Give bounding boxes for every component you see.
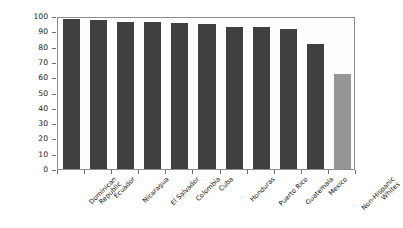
y-axis-tick-label: 10 bbox=[38, 150, 48, 159]
x-axis-tick-mark bbox=[111, 170, 112, 174]
bar bbox=[171, 23, 188, 169]
x-axis-category-label: Non-HispanicWhites bbox=[361, 176, 402, 217]
y-axis-tick-mark bbox=[52, 109, 56, 110]
y-axis-tick: 80 bbox=[0, 48, 57, 49]
x-axis-tick-mark bbox=[192, 170, 193, 174]
y-axis-tick-label: 40 bbox=[38, 104, 48, 113]
bar bbox=[144, 22, 161, 169]
y-axis-tick: 50 bbox=[0, 94, 57, 95]
bar bbox=[307, 44, 324, 169]
bar bbox=[90, 20, 107, 169]
bar bbox=[198, 24, 215, 169]
x-axis-tick-mark bbox=[138, 170, 139, 174]
y-axis-tick-mark bbox=[52, 17, 56, 18]
y-axis-tick: 90 bbox=[0, 32, 57, 33]
x-axis-tick-mark bbox=[328, 170, 329, 174]
x-axis-tick-mark bbox=[274, 170, 275, 174]
bar bbox=[253, 27, 270, 169]
y-axis-tick: 60 bbox=[0, 78, 57, 79]
x-axis-tick-mark bbox=[301, 170, 302, 174]
x-axis-tick-mark bbox=[355, 170, 356, 174]
y-axis-tick-label: 0 bbox=[43, 165, 48, 174]
x-axis-tick-mark bbox=[84, 170, 85, 174]
y-axis-tick: 30 bbox=[0, 124, 57, 125]
bar bbox=[280, 29, 297, 169]
x-axis-tick-mark bbox=[220, 170, 221, 174]
y-axis-tick: 20 bbox=[0, 139, 57, 140]
x-axis-category-label-line: El Salvador bbox=[170, 176, 201, 207]
y-axis-tick-label: 100 bbox=[34, 12, 49, 21]
bar bbox=[334, 74, 351, 169]
y-axis-tick-label: 50 bbox=[38, 89, 48, 98]
x-axis-category-label-line: Honduras bbox=[249, 176, 277, 204]
y-axis-tick-label: 20 bbox=[38, 134, 48, 143]
y-axis-tick-mark bbox=[52, 139, 56, 140]
plot-area bbox=[57, 17, 355, 170]
y-axis-tick-mark bbox=[52, 94, 56, 95]
y-axis-tick: 0 bbox=[0, 170, 57, 171]
x-axis-tick-mark bbox=[57, 170, 58, 174]
y-axis-tick-mark bbox=[52, 78, 56, 79]
y-axis-tick-label: 90 bbox=[38, 27, 48, 36]
y-axis-tick: 40 bbox=[0, 109, 57, 110]
y-axis-tick-label: 30 bbox=[38, 119, 48, 128]
y-axis-tick-mark bbox=[52, 63, 56, 64]
y-axis-tick-label: 70 bbox=[38, 58, 48, 67]
y-axis-tick: 100 bbox=[0, 17, 57, 18]
y-axis-tick: 10 bbox=[0, 155, 57, 156]
x-axis-tick-mark bbox=[247, 170, 248, 174]
x-axis-category-label: El Salvador bbox=[170, 176, 201, 207]
y-axis-tick-label: 60 bbox=[38, 73, 48, 82]
y-axis-tick-mark bbox=[52, 48, 56, 49]
y-axis-tick-mark bbox=[52, 170, 56, 171]
y-axis-tick-mark bbox=[52, 155, 56, 156]
x-axis-category-label-line: Nicaragua bbox=[142, 176, 171, 205]
x-axis-category-label: Nicaragua bbox=[142, 176, 171, 205]
bar bbox=[117, 22, 134, 169]
y-axis-tick: 70 bbox=[0, 63, 57, 64]
y-axis-tick-label: 80 bbox=[38, 43, 48, 52]
y-axis-tick-mark bbox=[52, 124, 56, 125]
bar bbox=[226, 27, 243, 169]
y-axis-tick-mark bbox=[52, 32, 56, 33]
x-axis-category-label: Honduras bbox=[249, 176, 277, 204]
bar bbox=[63, 19, 80, 169]
x-axis-tick-mark bbox=[165, 170, 166, 174]
